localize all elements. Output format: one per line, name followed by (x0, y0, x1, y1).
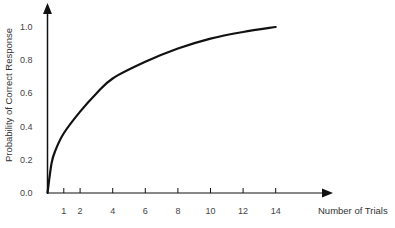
y-ticks: 0.00.20.40.60.81.0 (20, 22, 33, 198)
y-tick-label: 0.4 (20, 122, 33, 132)
x-tick-label: 10 (205, 206, 215, 216)
x-tick-label: 1 (61, 206, 66, 216)
y-tick-label: 0.8 (20, 55, 33, 65)
x-tick-label: 6 (143, 206, 148, 216)
x-tick-label: 12 (238, 206, 248, 216)
y-tick-label: 0.2 (20, 155, 33, 165)
x-tick-label: 14 (271, 206, 281, 216)
x-tick-label: 2 (78, 206, 83, 216)
x-ticks: 12468101214 (61, 188, 280, 216)
learning-curve-chart: 12468101214 0.00.20.40.60.81.0 Number of… (0, 0, 395, 228)
y-axis-arrow-icon (43, 3, 52, 14)
x-tick-label: 4 (110, 206, 115, 216)
y-tick-label: 1.0 (20, 22, 33, 32)
learning-curve-line (48, 27, 276, 193)
y-axis-title: Probability of Correct Response (3, 28, 14, 162)
y-tick-label: 0.6 (20, 88, 33, 98)
x-tick-label: 8 (175, 206, 180, 216)
y-tick-label: 0.0 (20, 188, 33, 198)
x-axis-title: Number of Trials (318, 205, 388, 216)
x-axis-arrow-icon (322, 189, 333, 198)
